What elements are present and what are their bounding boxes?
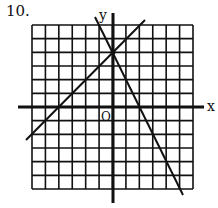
origin-label: O (101, 110, 111, 124)
coordinate-graph: y x O (0, 0, 218, 208)
y-axis-label: y (98, 7, 107, 23)
x-axis-label: x (207, 98, 215, 114)
intersection-point (111, 50, 116, 55)
